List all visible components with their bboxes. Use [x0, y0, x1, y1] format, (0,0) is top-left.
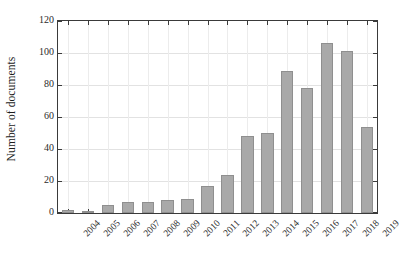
- x-axis-tick-mark-top: [267, 21, 268, 25]
- x-axis-tick-label: 2006: [121, 218, 142, 239]
- bar: [361, 127, 373, 213]
- gridline-vertical: [188, 21, 189, 213]
- x-axis-tick-mark-top: [68, 21, 69, 25]
- x-axis-tick-label: 2011: [221, 218, 241, 238]
- bar: [82, 211, 94, 213]
- x-axis-tick-mark-top: [227, 21, 228, 25]
- gridline-vertical: [88, 21, 89, 213]
- bar: [181, 199, 193, 213]
- x-axis-tick-mark-top: [287, 21, 288, 25]
- y-axis-title: Number of documents: [0, 0, 22, 218]
- gridline-vertical: [208, 21, 209, 213]
- bar: [241, 136, 253, 213]
- x-axis-tick-mark-top: [188, 21, 189, 25]
- bar: [161, 200, 173, 213]
- y-axis-tick-label: 20: [28, 175, 54, 185]
- x-axis-tick-mark-top: [148, 21, 149, 25]
- y-axis-tick-label: 120: [28, 15, 54, 25]
- x-axis-tick-label: 2019: [381, 218, 401, 239]
- x-axis-tick-mark-top: [347, 21, 348, 25]
- y-axis-tick-mark-right: [373, 53, 377, 54]
- x-axis-tick-mark-top: [88, 21, 89, 25]
- y-axis-tick-label: 100: [28, 47, 54, 57]
- y-axis-tick-mark: [58, 85, 62, 86]
- bar: [62, 210, 74, 213]
- x-axis-tick-label: 2012: [241, 218, 262, 239]
- x-axis-tick-mark-top: [367, 21, 368, 25]
- bar: [301, 88, 313, 213]
- y-axis-tick-label: 60: [28, 111, 54, 121]
- x-axis-tick-mark-top: [307, 21, 308, 25]
- bar: [201, 186, 213, 213]
- x-axis-tick-mark-top: [208, 21, 209, 25]
- x-axis-tick-label: 2014: [281, 218, 302, 239]
- y-axis-tick-label: 40: [28, 143, 54, 153]
- y-axis-tick-label: 80: [28, 79, 54, 89]
- x-axis-tick-mark-top: [128, 21, 129, 25]
- x-axis-tick-label: 2007: [141, 218, 162, 239]
- x-axis-tick-label: 2009: [181, 218, 202, 239]
- x-axis-tick-label: 2015: [301, 218, 322, 239]
- bar: [122, 202, 134, 213]
- plot-area: [57, 20, 378, 214]
- gridline-vertical: [68, 21, 69, 213]
- gridline-vertical: [108, 21, 109, 213]
- bar: [321, 43, 333, 213]
- bar-chart-figure: Number of documents 020406080100120 2004…: [0, 0, 401, 258]
- y-axis-tick-mark-right: [373, 21, 377, 22]
- x-axis-tick-mark-top: [327, 21, 328, 25]
- bar: [281, 71, 293, 213]
- y-axis-tick-mark: [58, 21, 62, 22]
- y-axis-tick-mark-right: [373, 212, 377, 213]
- x-axis-tick-label: 2010: [201, 218, 222, 239]
- y-axis-tick-mark: [58, 117, 62, 118]
- y-axis-tick-mark: [58, 53, 62, 54]
- x-axis-tick-label: 2013: [261, 218, 282, 239]
- gridline-vertical: [168, 21, 169, 213]
- y-axis-tick-mark: [58, 149, 62, 150]
- y-axis-tick-label: 0: [28, 207, 54, 217]
- x-axis-tick-label: 2016: [321, 218, 342, 239]
- bar: [261, 133, 273, 213]
- y-axis-tick-mark: [58, 181, 62, 182]
- bar: [102, 205, 114, 213]
- bar: [142, 202, 154, 213]
- x-axis-tick-label: 2018: [361, 218, 382, 239]
- y-axis-tick-mark-right: [373, 181, 377, 182]
- x-axis-tick-mark-top: [168, 21, 169, 25]
- y-axis-tick-labels: 020406080100120: [26, 0, 54, 258]
- x-axis-tick-label: 2005: [101, 218, 122, 239]
- x-axis-tick-mark-top: [247, 21, 248, 25]
- y-axis-tick-mark-right: [373, 117, 377, 118]
- x-axis-tick-label: 2008: [161, 218, 182, 239]
- y-axis-tick-mark-right: [373, 85, 377, 86]
- y-axis-title-text: Number of documents: [5, 57, 17, 162]
- bar: [341, 51, 353, 213]
- gridline-vertical: [128, 21, 129, 213]
- bar: [221, 175, 233, 213]
- x-axis-tick-labels: 2004200520062007200820092010201120122013…: [57, 214, 378, 258]
- x-axis-tick-mark-top: [108, 21, 109, 25]
- y-axis-tick-mark-right: [373, 149, 377, 150]
- x-axis-tick-label: 2017: [341, 218, 362, 239]
- x-axis-tick-label: 2004: [82, 218, 103, 239]
- gridline-vertical: [148, 21, 149, 213]
